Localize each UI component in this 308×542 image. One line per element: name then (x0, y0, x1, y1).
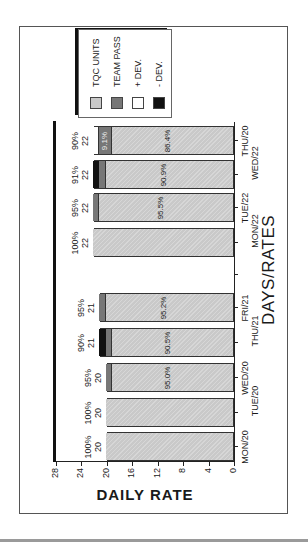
inner-pct-label: 95.2% (159, 295, 168, 322)
bar-top-label: 95%22 (70, 190, 90, 226)
bar-total: 22 (80, 190, 90, 226)
segment-tqc-units (106, 400, 233, 427)
bar-total: 21 (86, 290, 96, 326)
bar-rate: 100% (83, 429, 93, 465)
x-tick-label: MON/20 (240, 427, 250, 467)
segment-tqc-units (106, 434, 233, 461)
bar-total: 20 (93, 429, 103, 465)
x-tick (234, 140, 238, 141)
y-tick (234, 462, 235, 466)
legend-swatch-icon (132, 97, 144, 109)
y-tick-label: 28 (50, 468, 60, 496)
bar-tue-22: 95.5% (94, 194, 234, 223)
x-tick (234, 207, 238, 208)
x-tick-label: TUE/22 (240, 188, 250, 228)
bar-mon-22 (94, 229, 234, 258)
x-tick (234, 412, 238, 413)
segment-minus-dev (99, 330, 105, 357)
bar-rate: 95% (83, 360, 93, 396)
segment-tqc-units: 90.9% (106, 162, 233, 189)
bar-tue-20 (107, 399, 234, 428)
legend-label: - DEV. (154, 61, 164, 87)
bar-total: 20 (93, 395, 103, 431)
x-tick (234, 274, 238, 275)
bar-total: 20 (93, 360, 103, 396)
bar-wed-22: 90.9% (94, 161, 234, 190)
legend-item-team-pass: TEAM PASS (110, 36, 124, 109)
segment-team-pass: 9.1% (99, 128, 112, 155)
legend-swatch-icon (111, 97, 123, 109)
bar-thu-20: 86.4%9.1% (94, 127, 234, 156)
chart-canvas: 0481216202428 MON/20100%20TUE/20100%20WE… (19, 26, 288, 514)
legend-item-minus-dev: - DEV. (152, 61, 166, 109)
bar-top-label: 95%20 (83, 360, 103, 396)
legend-item-plus-dev: + DEV. (131, 59, 145, 109)
inner-pct-label: 95.5% (156, 195, 165, 222)
x-tick (234, 174, 238, 175)
y-tick-label: 24 (75, 468, 85, 496)
bar-rate: 90% (76, 325, 86, 361)
bar-total: 22 (80, 157, 90, 193)
y-tick-label: 0 (228, 468, 238, 496)
y-tick (56, 462, 57, 466)
segment-tqc-units (93, 230, 233, 257)
segment-team-pass (106, 365, 112, 392)
bar-total: 22 (80, 123, 90, 159)
legend-item-tqc-units: TQC UNITS (89, 39, 103, 110)
legend-swatch-icon (153, 97, 165, 109)
bar-rate: 95% (76, 290, 86, 326)
segment-plus-dev (93, 128, 99, 155)
inner-pct-label: 90.9% (159, 162, 168, 189)
y-axis-title: DAILY RATE (96, 486, 193, 503)
x-tick (234, 342, 238, 343)
y-tick (158, 462, 159, 466)
inner-pct-label: 86.4% (163, 128, 172, 155)
y-tick (209, 462, 210, 466)
segment-team-pass (93, 195, 99, 222)
segment-tqc-units: 90.5% (112, 330, 233, 357)
x-tick (234, 242, 238, 243)
bar-top-label: 95%21 (76, 290, 96, 326)
segment-tqc-units: 95.2% (106, 295, 233, 322)
bar-rate: 95% (70, 190, 80, 226)
bar-rate: 100% (70, 225, 80, 261)
bar-total: 22 (80, 225, 90, 261)
x-tick-label: WED/20 (240, 358, 250, 398)
segment-team-pass (106, 330, 112, 357)
bar-top-label: 100%20 (83, 429, 103, 465)
y-tick-label: 4 (203, 468, 213, 496)
legend-label: TQC UNITS (91, 39, 101, 88)
bar-top-label: 90%21 (76, 325, 96, 361)
legend-label: + DEV. (133, 59, 143, 87)
x-axis-title: DAYS/RATES (259, 26, 279, 514)
segment-team-pass (99, 295, 105, 322)
segment-tqc-units: 95.0% (112, 365, 233, 392)
segment-tqc-units: 86.4% (112, 128, 233, 155)
bar-top-label: 100%22 (70, 225, 90, 261)
bar-rate: 91% (70, 157, 80, 193)
bar-rate: 100% (83, 395, 93, 431)
bar-top-label: 91%22 (70, 157, 90, 193)
x-tick (234, 377, 238, 378)
bar-rate: 90% (70, 123, 80, 159)
bar-thu-21: 90.5% (100, 329, 234, 358)
legend: TQC UNITS TEAM PASS + DEV. - DEV. (78, 29, 172, 118)
team-pass-pct-label: 9.1% (100, 128, 109, 155)
x-tick (234, 307, 238, 308)
x-tick-label: THU/20 (240, 121, 250, 161)
bar-mon-20 (107, 433, 234, 462)
y-tick (183, 462, 184, 466)
bar-wed-20: 95.0% (107, 364, 234, 393)
y-tick (107, 462, 108, 466)
x-axis-line (234, 122, 235, 462)
segment-tqc-units: 95.5% (99, 195, 233, 222)
legend-swatch-icon (90, 97, 102, 109)
bar-fri-21: 95.2% (100, 294, 234, 323)
inner-pct-label: 95.0% (163, 365, 172, 392)
x-tick (234, 446, 238, 447)
y-tick (132, 462, 133, 466)
legend-label: TEAM PASS (112, 36, 122, 87)
bar-top-label: 90%22 (70, 123, 90, 159)
segment-team-pass (99, 162, 105, 189)
bar-top-label: 100%20 (83, 395, 103, 431)
